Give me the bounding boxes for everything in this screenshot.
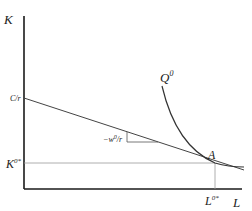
slope-label: −w0/r xyxy=(103,134,123,144)
x-axis-label: L xyxy=(232,195,240,210)
isocost-isoquant-diagram: K L C/r Q0 −w0/r A K0* L0* xyxy=(0,0,252,211)
y-axis-label: K xyxy=(3,12,14,27)
l-star-label: L0* xyxy=(204,194,219,208)
intercept-label: C/r xyxy=(10,94,22,103)
isoquant-curve xyxy=(162,86,244,167)
k-star-label: K0* xyxy=(5,157,22,171)
optimum-point-label: A xyxy=(207,148,216,162)
isoquant-label: Q0 xyxy=(160,69,173,85)
